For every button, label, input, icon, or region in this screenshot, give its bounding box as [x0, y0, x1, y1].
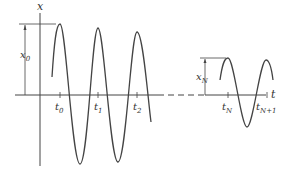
t1-label: t1 — [94, 101, 103, 115]
x0-arrow-icon — [24, 25, 27, 30]
t2-label: t2 — [133, 101, 142, 115]
oscillation-curve-left — [52, 24, 151, 164]
tN1-label: tN+1 — [256, 101, 276, 115]
xN-arrow-icon — [204, 59, 207, 63]
t-axis-label: t — [271, 88, 276, 101]
damped-oscillation-diagram: x t x0 t0 t1 t2 xN tN tN+1 — [0, 0, 307, 169]
x-axis-label: x — [37, 0, 44, 13]
tN-label: tN — [222, 101, 233, 115]
xN-label: xN — [196, 71, 209, 85]
x0-label: x0 — [20, 49, 31, 63]
t0-label: t0 — [55, 101, 64, 115]
